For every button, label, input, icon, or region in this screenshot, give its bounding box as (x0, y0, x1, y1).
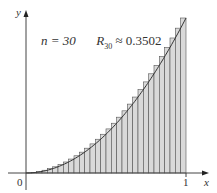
riemann-annotation: n = 30 R30 ≈ 0.3502 (41, 33, 162, 51)
y-axis-label: y (16, 6, 21, 18)
riemann-bar (106, 129, 111, 173)
riemann-bar (138, 90, 143, 173)
riemann-bar (101, 134, 106, 173)
y-axis-arrow-icon (24, 10, 29, 17)
riemann-sum-chart (0, 0, 217, 193)
riemann-bar (117, 117, 122, 173)
riemann-bar (95, 139, 100, 173)
riemann-bar (143, 82, 148, 173)
riemann-bar (90, 144, 95, 173)
riemann-bar (111, 123, 116, 173)
x-axis-label: x (204, 176, 209, 188)
r-value: ≈ 0.3502 (115, 33, 161, 48)
riemann-bar (175, 28, 180, 173)
riemann-bar (181, 18, 186, 173)
riemann-bar (127, 104, 132, 173)
riemann-bar (149, 74, 154, 173)
riemann-bar (165, 47, 170, 173)
riemann-bar (122, 111, 127, 173)
riemann-bar (154, 65, 159, 173)
riemann-bar (170, 38, 175, 173)
x-tick-label-1: 1 (183, 176, 189, 188)
n-label: n = 30 (41, 33, 76, 48)
x-axis-arrow-icon (202, 171, 209, 176)
r-subscript: 30 (104, 42, 112, 51)
riemann-bar (133, 97, 138, 173)
riemann-bar (159, 57, 164, 173)
origin-label: 0 (17, 176, 23, 188)
